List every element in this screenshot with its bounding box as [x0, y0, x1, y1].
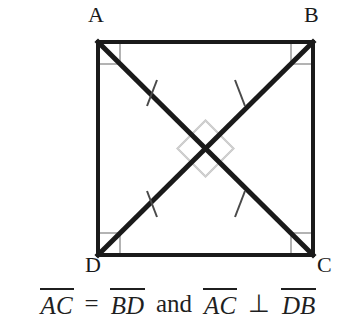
caption-conjunction: and	[156, 288, 192, 318]
center-right-angle-mark-top	[192, 121, 220, 135]
tick-mark-B-center	[235, 80, 245, 106]
caption-statement: AC = BD and AC ⊥ DB	[0, 288, 356, 327]
caption-perpendicular-symbol: ⊥	[248, 288, 270, 318]
tick-mark-C-center	[235, 191, 245, 217]
caption-segment-bd: BD	[110, 288, 145, 320]
center-right-angle-mark-bottom	[192, 163, 220, 177]
diagonal-tick-marks	[147, 80, 245, 217]
vertex-label-A: A	[88, 4, 104, 26]
vertex-label-B: B	[304, 4, 319, 26]
caption-segment-ac-2: AC	[203, 288, 237, 320]
diagonals	[98, 42, 313, 255]
square-diagonals-svg	[0, 0, 356, 283]
caption-equals-symbol: =	[85, 288, 99, 318]
center-right-angle-mark-right	[220, 135, 234, 163]
caption-segment-db: DB	[281, 288, 316, 320]
center-right-angle-mark-left	[178, 135, 192, 163]
vertex-label-C: C	[317, 254, 332, 276]
vertex-label-D: D	[85, 254, 101, 276]
geometry-figure: A B C D	[0, 0, 356, 283]
caption-segment-ac-1: AC	[40, 288, 74, 320]
